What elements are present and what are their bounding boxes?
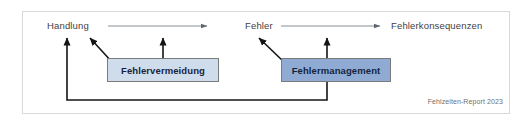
process-box-fehlervermeidung-label: Fehlervermeidung bbox=[121, 65, 205, 76]
process-box-fehlervermeidung: Fehlervermeidung bbox=[107, 58, 219, 82]
process-box-fehlermanagement: Fehlermanagement bbox=[281, 58, 391, 82]
figure-container: Handlung Fehler Fehlerkonsequenzen Fehle… bbox=[0, 0, 532, 123]
node-label-handlung: Handlung bbox=[47, 21, 89, 31]
process-box-fehlermanagement-label: Fehlermanagement bbox=[292, 65, 381, 76]
node-label-fehler: Fehler bbox=[245, 21, 273, 31]
node-label-fehlerkonsequenzen: Fehlerkonsequenzen bbox=[391, 21, 482, 31]
figure-source-caption: Fehlzeiten-Report 2023 bbox=[428, 98, 503, 105]
